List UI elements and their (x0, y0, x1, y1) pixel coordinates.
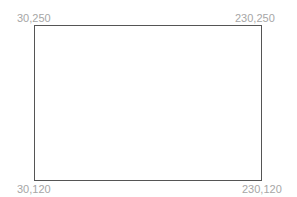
top-left-corner-label: 30,250 (17, 12, 51, 24)
top-right-corner-label: 230,250 (235, 12, 275, 24)
bottom-left-corner-label: 30,120 (17, 183, 51, 195)
rectangle (34, 25, 262, 181)
bottom-right-corner-label: 230,120 (242, 183, 282, 195)
